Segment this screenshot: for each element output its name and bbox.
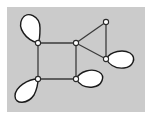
graph-diagram xyxy=(0,0,152,122)
vertex-top-left xyxy=(35,40,40,45)
figure-root xyxy=(0,0,152,122)
graph-figure-panel xyxy=(0,0,152,122)
vertex-bottom-left xyxy=(35,76,40,81)
vertex-top-middle xyxy=(73,40,78,45)
vertex-bottom-middle xyxy=(73,76,78,81)
vertex-top-right xyxy=(103,19,108,24)
vertex-right xyxy=(103,56,108,61)
